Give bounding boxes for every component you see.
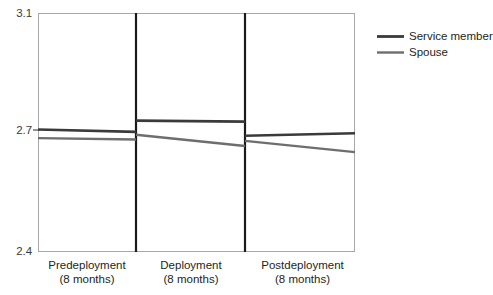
service-member-segment-postdeployment xyxy=(245,133,355,135)
plot-frame xyxy=(39,14,355,252)
service-member-segment-predeployment xyxy=(38,130,136,132)
panel-label-predeployment-name: Predeployment xyxy=(48,259,125,271)
spouse-segment-predeployment xyxy=(38,138,136,139)
panel-label-deployment-name: Deployment xyxy=(160,259,221,271)
panel-label-deployment-duration: (8 months) xyxy=(141,272,241,286)
spouse-segment-postdeployment xyxy=(245,141,355,152)
panel-label-predeployment-duration: (8 months) xyxy=(37,272,137,286)
panel-label-postdeployment-duration: (8 months) xyxy=(250,272,355,286)
panel-label-predeployment: Predeployment (8 months) xyxy=(37,258,137,286)
service-member-segment-deployment xyxy=(136,121,245,122)
legend-label-spouse: Spouse xyxy=(409,46,448,58)
legend-label-service-member: Service member xyxy=(409,30,493,42)
spouse-segment-deployment xyxy=(136,135,245,146)
panel-label-postdeployment: Postdeployment (8 months) xyxy=(250,258,355,286)
panel-label-postdeployment-name: Postdeployment xyxy=(261,259,343,271)
series-spouse xyxy=(38,135,355,152)
series-service-member xyxy=(38,121,355,136)
panel-label-deployment: Deployment (8 months) xyxy=(141,258,241,286)
